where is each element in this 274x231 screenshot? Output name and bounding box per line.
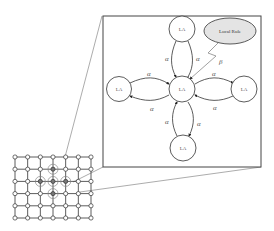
la-node-right: LA (231, 76, 257, 102)
cellular-grid (13, 155, 93, 220)
grid-cell (38, 192, 42, 196)
label-right-bottom: α (213, 104, 217, 112)
la-node-left-label: LA (116, 87, 123, 92)
grid-cell (26, 204, 30, 208)
la-node-right-label: LA (241, 87, 248, 92)
grid-cell (89, 204, 93, 208)
grid-cell (89, 155, 93, 159)
grid-cell (26, 155, 30, 159)
la-node-bottom: LA (170, 135, 196, 161)
grid-cell (76, 204, 80, 208)
grid-cell (51, 179, 55, 183)
grid-cell (76, 216, 80, 220)
grid-cell (38, 155, 42, 159)
grid-cell (38, 167, 42, 171)
grid-cell (64, 216, 68, 220)
grid-cell (64, 192, 68, 196)
label-reinforcement: β (218, 58, 223, 66)
local-rule-label: Local Rule (219, 29, 242, 34)
grid-cell (26, 179, 30, 183)
grid-cell (13, 167, 17, 171)
grid-cell (76, 155, 80, 159)
la-node-left: LA (107, 77, 132, 102)
grid-cell (38, 204, 42, 208)
label-top-right: α (196, 55, 200, 63)
label-left-top: α (147, 70, 151, 78)
grid-cell (13, 155, 17, 159)
grid-cell (13, 216, 17, 220)
grid-cell (89, 216, 93, 220)
la-node-center-label: LA (179, 87, 186, 92)
la-node-bottom-label: LA (180, 146, 187, 151)
grid-cell (64, 167, 68, 171)
grid-cell (13, 192, 17, 196)
grid-cell (64, 179, 68, 183)
la-node-center: LA (169, 76, 195, 102)
local-rule: Local Rule (204, 18, 256, 44)
grid-cell (64, 155, 68, 159)
grid-cell (51, 216, 55, 220)
label-right-top: α (212, 70, 216, 78)
grid-cell (51, 192, 55, 196)
grid-cell (26, 167, 30, 171)
grid-cell (13, 179, 17, 183)
grid-cell (76, 179, 80, 183)
label-top-left: α (165, 55, 169, 63)
diagram-canvas: α α α α α α α α β LA LA LA LA LA Local R… (0, 0, 274, 231)
grid-cell (51, 167, 55, 171)
la-node-top-label: LA (179, 27, 186, 32)
grid-cell (51, 204, 55, 208)
grid-cell (26, 216, 30, 220)
label-bottom-left: α (165, 118, 169, 126)
grid-cell (51, 155, 55, 159)
grid-cell (89, 179, 93, 183)
grid-cell (76, 192, 80, 196)
grid-cell (89, 192, 93, 196)
grid-cell (89, 167, 93, 171)
label-bottom-right: α (197, 120, 201, 128)
grid-cell (64, 204, 68, 208)
grid-cell (38, 216, 42, 220)
la-node-top: LA (169, 16, 195, 42)
grid-cell (76, 167, 80, 171)
grid-cell (26, 192, 30, 196)
grid-cell (13, 204, 17, 208)
grid-cell (38, 179, 42, 183)
label-left-bottom: α (150, 105, 154, 113)
